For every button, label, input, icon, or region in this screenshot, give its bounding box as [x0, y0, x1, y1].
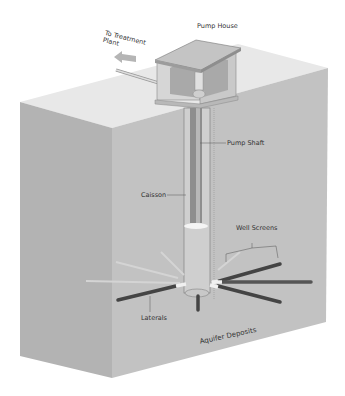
label-pump-shaft: Pump Shaft — [227, 139, 264, 147]
label-laterals: Laterals — [141, 314, 167, 322]
pump-house — [155, 40, 241, 108]
flow-arrow-icon — [114, 51, 136, 63]
caisson — [184, 108, 214, 300]
label-pump-house: Pump House — [197, 22, 238, 30]
label-well-screens: Well Screens — [236, 224, 277, 232]
diagram-canvas — [0, 0, 345, 396]
ground-left-face — [20, 102, 112, 378]
label-caisson: Caisson — [141, 191, 166, 199]
